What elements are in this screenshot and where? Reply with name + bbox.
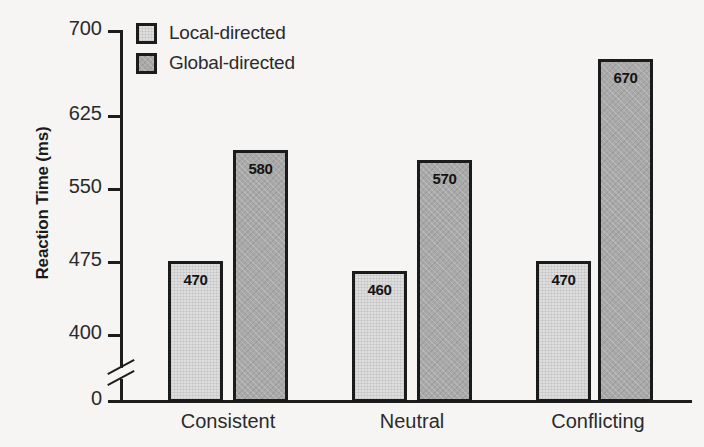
x-category-label-neutral: Neutral <box>352 410 472 433</box>
bar-consistent-global-directed[interactable]: 580 <box>233 150 288 402</box>
y-tick-label-625: 625 <box>30 102 102 125</box>
bar-value-consistent-global: 580 <box>236 160 285 177</box>
y-tick-label-0: 0 <box>30 387 102 410</box>
bar-conflicting-local-directed[interactable]: 470 <box>536 261 591 402</box>
y-tick-label-475: 475 <box>30 248 102 271</box>
y-axis-title: Reaction Time (ms) <box>33 98 53 308</box>
bar-conflicting-global-directed[interactable]: 670 <box>598 59 653 402</box>
x-category-label-conflicting: Conflicting <box>533 410 663 433</box>
bar-value-consistent-local: 470 <box>171 271 220 288</box>
y-tick-label-700: 700 <box>30 17 102 40</box>
bar-value-neutral-local: 460 <box>355 281 404 298</box>
bar-value-conflicting-global: 670 <box>601 69 650 86</box>
bar-neutral-local-directed[interactable]: 460 <box>352 271 407 402</box>
y-tick-label-550: 550 <box>30 175 102 198</box>
bar-neutral-global-directed[interactable]: 570 <box>417 160 472 402</box>
plot-area: 470 580 460 570 470 670 <box>120 20 692 402</box>
bar-value-conflicting-local: 470 <box>539 271 588 288</box>
y-tick-label-400: 400 <box>30 321 102 344</box>
x-category-label-consistent: Consistent <box>168 410 288 433</box>
bar-consistent-local-directed[interactable]: 470 <box>168 261 223 402</box>
bar-value-neutral-global: 570 <box>420 170 469 187</box>
bar-chart-figure: Reaction Time (ms) 700 625 550 475 400 0… <box>0 0 704 447</box>
